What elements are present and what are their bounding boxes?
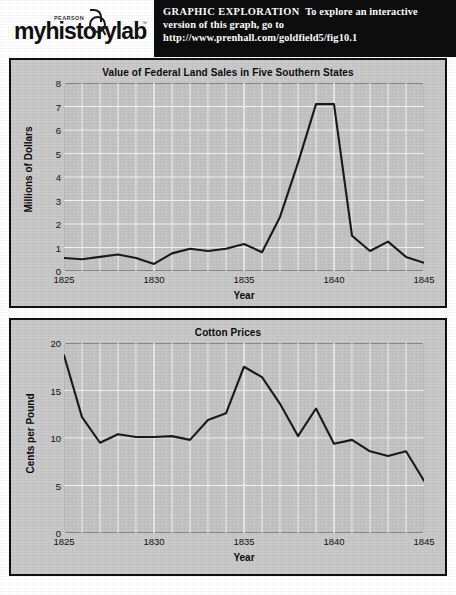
x-axis-label-cotton-prices: Year	[64, 552, 424, 563]
graphic-exploration-callout: GRAPHIC EXPLORATION To explore an intera…	[154, 0, 456, 57]
y-axis-ticks-cotton-prices: 05101520	[31, 343, 61, 533]
y-axis-tick-label: 5	[35, 480, 61, 491]
promo-kicker: GRAPHIC EXPLORATION	[163, 6, 300, 17]
y-axis-tick-label: 1	[35, 242, 61, 253]
x-axis-tick-label: 1840	[323, 274, 344, 285]
x-axis-tick-label: 1840	[323, 536, 344, 547]
x-axis-tick-label: 1835	[233, 536, 254, 547]
trademark-symbol: ™	[142, 20, 147, 26]
y-axis-tick-label: 5	[35, 148, 61, 159]
x-axis-tick-label: 1835	[233, 274, 254, 285]
x-axis-label-land-sales: Year	[64, 290, 424, 301]
y-axis-ticks-land-sales: 012345678	[31, 83, 61, 271]
y-axis-tick-label: 15	[35, 385, 61, 396]
y-axis-tick-label: 20	[35, 338, 61, 349]
promo-line-1: GRAPHIC EXPLORATION To explore an intera…	[163, 5, 448, 18]
x-axis-tick-label: 1825	[53, 274, 74, 285]
y-axis-tick-label: 6	[35, 125, 61, 136]
x-axis-tick-label: 1830	[143, 274, 164, 285]
y-axis-tick-label: 7	[35, 101, 61, 112]
x-axis-tick-label: 1845	[413, 274, 434, 285]
chart-title-land-sales: Value of Federal Land Sales in Five Sout…	[11, 67, 445, 78]
line-chart-land-sales	[64, 83, 424, 271]
page-header: PEARSON myhistorylab ™ GRAPHIC EXPLORATI…	[0, 0, 456, 57]
y-axis-tick-label: 2	[35, 219, 61, 230]
myhistorylab-logo: PEARSON myhistorylab ™	[6, 6, 154, 52]
x-axis-tick-label: 1845	[413, 536, 434, 547]
chart-title-cotton-prices: Cotton Prices	[11, 327, 445, 338]
chart-panel-land-sales: Value of Federal Land Sales in Five Sout…	[9, 58, 447, 308]
y-axis-tick-label: 10	[35, 433, 61, 444]
myhistorylab-wordmark: myhistorylab	[14, 18, 146, 45]
y-axis-tick-label: 3	[35, 195, 61, 206]
promo-line-1-rest: To explore an interactive	[305, 6, 417, 17]
plot-area-cotton-prices	[64, 343, 424, 533]
x-axis-tick-label: 1830	[143, 536, 164, 547]
promo-line-2: version of this graph, go to	[163, 18, 448, 31]
chart-panel-cotton-prices: Cotton Prices Cents per Pound 05101520 1…	[9, 318, 447, 576]
y-axis-tick-label: 8	[35, 78, 61, 89]
plot-area-land-sales	[64, 83, 424, 271]
x-axis-tick-label: 1825	[53, 536, 74, 547]
y-axis-tick-label: 4	[35, 172, 61, 183]
promo-url[interactable]: http://www.prenhall.com/goldfield5/fig10…	[163, 31, 448, 44]
line-chart-cotton-prices	[64, 343, 424, 533]
